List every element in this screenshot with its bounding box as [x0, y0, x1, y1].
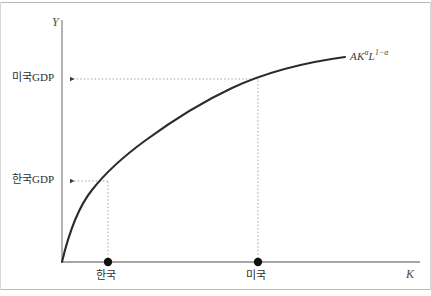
formula-exponent-one-minus-alpha: 1−α	[375, 48, 388, 57]
us-axis-marker	[254, 258, 262, 266]
korea-axis-marker	[104, 258, 112, 266]
y-axis-label: Y	[52, 16, 59, 28]
production-function-curve	[62, 57, 345, 262]
x-axis-label: K	[406, 268, 414, 280]
us-x-tick-label: 미국	[246, 270, 266, 281]
figure-frame: Y K 미국GDP 한국GDP 한국 미국 AKαL1−α	[0, 0, 431, 296]
korea-gdp-value-label: 한국GDP	[12, 174, 54, 185]
production-function-chart	[0, 0, 431, 296]
korea-x-tick-label: 한국	[96, 270, 116, 281]
production-function-formula-label: AKαL1−α	[350, 49, 388, 62]
formula-coefficient-a: A	[350, 50, 357, 62]
us-gdp-value-label: 미국GDP	[12, 72, 54, 83]
